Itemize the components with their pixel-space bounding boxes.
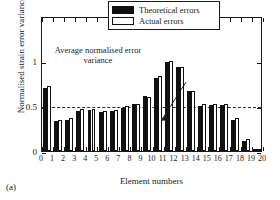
- bar-actual-2: [58, 120, 62, 151]
- bar-actual-12: [169, 61, 173, 151]
- legend-swatch-actual-icon: [112, 17, 134, 25]
- y-tick-0.5: [42, 108, 46, 109]
- bar-actual-1: [47, 86, 51, 151]
- x-tick-top-1: [53, 18, 54, 22]
- x-tick-0: [42, 147, 43, 151]
- figure-caption: (a): [6, 182, 16, 192]
- x-tick-1: [53, 147, 54, 151]
- bar-actual-6: [103, 111, 107, 152]
- bar-actual-16: [213, 104, 217, 151]
- bar-actual-18: [235, 118, 239, 151]
- x-tick-16: [219, 147, 220, 151]
- bar-actual-13: [180, 67, 184, 151]
- y-tick-label-0: 0: [17, 148, 37, 157]
- x-tick-20: [263, 147, 264, 151]
- x-tick-2: [64, 147, 65, 151]
- y-tick-right-0.5: [257, 108, 261, 109]
- x-tick-7: [119, 147, 120, 151]
- legend-label-actual: Actual errors: [139, 17, 184, 26]
- bar-actual-17: [224, 104, 228, 151]
- chart-legend: Theoretical errors Actual errors: [108, 1, 220, 30]
- x-tick-10: [153, 147, 154, 151]
- x-tick-top-3: [75, 18, 76, 22]
- legend-swatch-theoretical-icon: [112, 6, 134, 14]
- average-annotation-label: Average normalised error variance: [46, 45, 150, 65]
- bar-actual-11: [158, 76, 162, 151]
- x-tick-top-2: [64, 18, 65, 22]
- legend-label-theoretical: Theoretical errors: [139, 6, 200, 15]
- bar-actual-3: [69, 118, 73, 151]
- bar-actual-20: [257, 149, 261, 151]
- bar-actual-7: [114, 110, 118, 151]
- x-tick-top-17: [230, 18, 231, 22]
- bar-actual-5: [92, 109, 96, 151]
- x-tick-6: [108, 147, 109, 151]
- bar-actual-19: [246, 139, 250, 151]
- x-tick-13: [186, 147, 187, 151]
- bar-actual-15: [202, 104, 206, 151]
- x-tick-9: [141, 147, 142, 151]
- x-tick-top-18: [241, 18, 242, 22]
- legend-item-actual: Actual errors: [112, 16, 216, 26]
- figure-panel: Average normalised error variance Theore…: [0, 0, 280, 200]
- x-tick-15: [208, 147, 209, 151]
- bar-actual-4: [80, 109, 84, 151]
- x-tick-top-4: [86, 18, 87, 22]
- x-tick-top-5: [97, 18, 98, 22]
- x-tick-4: [86, 147, 87, 151]
- x-tick-top-20: [263, 18, 264, 22]
- bar-actual-8: [125, 106, 129, 151]
- x-tick-3: [75, 147, 76, 151]
- bar-actual-10: [147, 97, 151, 151]
- x-tick-8: [130, 147, 131, 151]
- legend-item-theoretical: Theoretical errors: [112, 5, 216, 15]
- x-tick-18: [241, 147, 242, 151]
- x-tick-17: [230, 147, 231, 151]
- bar-actual-14: [191, 91, 195, 151]
- x-tick-top-0: [42, 18, 43, 22]
- x-tick-11: [164, 147, 165, 151]
- y-axis-title: Normalised strain error variance: [16, 0, 26, 130]
- bar-actual-9: [136, 104, 140, 151]
- x-tick-5: [97, 147, 98, 151]
- x-tick-19: [252, 147, 253, 151]
- average-reference-line: [42, 107, 261, 108]
- x-tick-label-20: 20: [255, 155, 269, 163]
- x-axis-title: Element numbers: [41, 176, 262, 186]
- x-tick-14: [197, 147, 198, 151]
- y-tick-right-1: [257, 63, 261, 64]
- plot-area: [41, 17, 262, 152]
- x-tick-top-19: [252, 18, 253, 22]
- x-tick-12: [175, 147, 176, 151]
